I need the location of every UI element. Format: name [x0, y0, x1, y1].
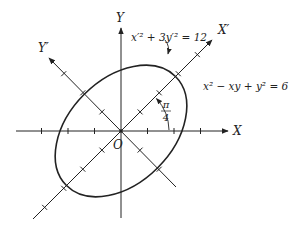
rotated-equation-label: x′² + 3y′² = 12 [131, 31, 207, 43]
y-prime-axis-label: Y′ [38, 41, 49, 55]
origin-label: O [113, 138, 123, 152]
diagram-canvas: Y X X′ Y′ O x′² + 3y′² = 12 x² − xy + y²… [0, 0, 296, 233]
origin-point [119, 129, 123, 133]
x-prime-axis-label: X′ [217, 23, 230, 37]
y-prime-axis [49, 58, 176, 187]
y-prime-axis-tick [61, 71, 66, 76]
x-axis-label: X [232, 124, 242, 138]
angle-label-numerator: π [162, 99, 170, 110]
angle-label-denominator: 4 [162, 112, 169, 123]
y-axis-label: Y [116, 11, 125, 25]
original-equation-label: x² − xy + y² = 6 [203, 80, 289, 92]
